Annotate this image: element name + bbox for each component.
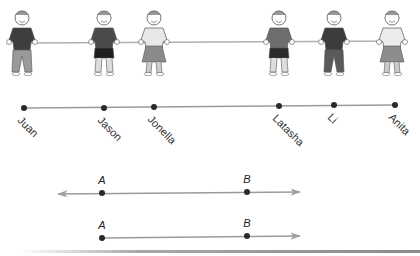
figure-li <box>319 11 350 76</box>
number-line <box>24 105 395 108</box>
line-label-a: A <box>98 174 105 186</box>
point-anita <box>392 102 398 108</box>
point-li <box>331 102 337 108</box>
figure-jonella <box>139 11 170 76</box>
line-point-a <box>99 190 105 196</box>
line-ab <box>58 192 300 194</box>
ray-label-a: A <box>98 219 105 231</box>
ray-ab <box>102 236 300 238</box>
line-label-b: B <box>243 173 250 185</box>
diagram-canvas <box>0 0 420 256</box>
figure-juan <box>7 11 38 76</box>
figure-anita <box>377 11 408 76</box>
ray-label-b: B <box>243 217 250 229</box>
line-point-b <box>244 189 250 195</box>
point-jonella <box>151 104 157 110</box>
diagram-stage: Juan Jason Jonella Latasha Li Anita A B … <box>0 0 420 256</box>
point-jason <box>101 105 107 111</box>
page-bottom-rule <box>20 250 420 253</box>
figure-jason <box>89 11 120 76</box>
point-juan <box>21 105 27 111</box>
figure-latasha <box>264 11 295 76</box>
ray-point-a <box>99 235 105 241</box>
ray-point-b <box>244 233 250 239</box>
point-latasha <box>276 103 282 109</box>
